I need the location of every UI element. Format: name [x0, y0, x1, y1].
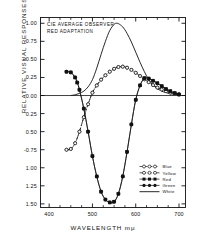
series-yellow-marker	[78, 130, 81, 133]
y-tick-label: 0.25	[26, 111, 37, 117]
y-tick-label: -0.75	[24, 147, 37, 153]
series-yellow-marker	[160, 88, 163, 91]
series-green-marker	[121, 175, 124, 178]
legend-label-green: Green	[163, 183, 176, 188]
figure: 4005006007001.000.75+0.500.250.000.250.5…	[0, 0, 206, 242]
legend-marker	[154, 171, 157, 174]
legend-marker	[142, 184, 145, 187]
series-green-marker	[99, 190, 102, 193]
series-yellow-marker	[152, 84, 155, 87]
series-yellow-marker	[147, 81, 150, 84]
series-green-marker	[87, 130, 90, 133]
legend-label-blue: Blue	[163, 164, 173, 169]
series-yellow-marker	[69, 147, 72, 150]
series-green-marker	[143, 77, 146, 80]
legend-marker	[148, 165, 151, 168]
series-yellow-marker	[156, 86, 159, 89]
series-green-marker	[156, 82, 159, 85]
series-yellow-marker	[95, 84, 98, 87]
series-green-marker	[125, 150, 128, 153]
y-tick-label: 1.50	[26, 201, 37, 207]
series-green-marker	[112, 200, 115, 203]
x-tick-label: 700	[174, 211, 184, 217]
series-green-marker	[104, 198, 107, 201]
chart-canvas: 4005006007001.000.75+0.500.250.000.250.5…	[0, 0, 206, 242]
y-tick-label: 0.50	[26, 129, 37, 135]
series-green-marker	[151, 79, 154, 82]
series-yellow-marker	[134, 71, 137, 74]
series-green-marker	[117, 192, 120, 195]
y-tick-label: 0.25	[26, 74, 37, 80]
series-green-marker	[173, 91, 176, 94]
series-green-marker	[82, 107, 85, 110]
series-green-marker	[95, 175, 98, 178]
series-yellow-marker	[82, 116, 85, 119]
annotation-line-2: RED ADAPTATION	[47, 28, 114, 35]
series-yellow-marker	[87, 103, 90, 106]
y-axis-title: RELATIVE VISUAL RESPONSES	[20, 0, 27, 131]
x-axis-title: WAVELENGTH mμ	[0, 224, 206, 231]
series-green-marker	[78, 88, 81, 91]
legend-marker	[154, 178, 157, 181]
legend-label-red: Red	[163, 177, 172, 182]
y-tick-label: 0.00	[26, 93, 37, 99]
series-yellow-marker	[130, 68, 133, 71]
series-yellow-marker	[74, 142, 77, 145]
series-yellow-marker	[65, 148, 68, 151]
series-green-marker	[76, 81, 79, 84]
y-tick-label: 1.00	[26, 165, 37, 171]
legend-marker	[148, 178, 151, 181]
legend-marker	[148, 171, 151, 174]
series-yellow-marker	[100, 78, 103, 81]
series-green-marker	[177, 93, 180, 96]
legend-marker	[143, 165, 146, 168]
legend-marker	[154, 165, 157, 168]
series-green-marker	[138, 84, 141, 87]
legend-marker	[148, 184, 151, 187]
series-yellow-marker	[113, 67, 116, 70]
annotation-line-1: CIE AVERAGE OBSERVER	[47, 21, 114, 28]
series-green-marker	[164, 87, 167, 90]
series-green-marker	[160, 85, 163, 88]
series-yellow-marker	[121, 65, 124, 68]
x-tick-label: 600	[131, 211, 141, 217]
series-green-marker	[91, 155, 94, 158]
series-yellow-marker	[117, 65, 120, 68]
series-yellow-marker	[104, 74, 107, 77]
legend-label-white: White	[163, 189, 175, 194]
series-green-marker	[69, 71, 72, 74]
plot-annotation: CIE AVERAGE OBSERVER RED ADAPTATION	[47, 21, 114, 35]
series-green-marker	[169, 90, 172, 93]
legend-label-yellow: Yellow	[163, 171, 177, 176]
series-yellow-marker	[126, 66, 129, 69]
y-tick-label: 0.75	[26, 38, 37, 44]
series-green-marker	[130, 123, 133, 126]
legend-marker	[143, 178, 146, 181]
legend-marker	[153, 184, 156, 187]
series-yellow-marker	[108, 70, 111, 73]
legend-marker	[143, 171, 146, 174]
series-green-marker	[147, 77, 150, 80]
series-green-marker	[74, 76, 77, 79]
series-green-marker	[134, 98, 137, 101]
x-tick-label: 400	[44, 211, 54, 217]
series-yellow-marker	[91, 91, 94, 94]
series-green-marker	[65, 70, 68, 73]
y-tick-label: 1.00	[26, 20, 37, 26]
series-yellow-marker	[139, 75, 142, 78]
y-tick-label: 1.25	[26, 183, 37, 189]
series-green-marker	[108, 201, 111, 204]
x-tick-label: 500	[88, 211, 98, 217]
